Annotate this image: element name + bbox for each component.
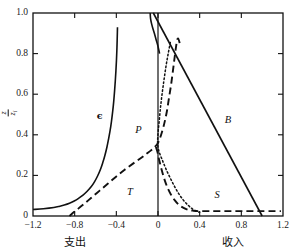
y-tick-label: 1.0 bbox=[2, 8, 28, 18]
series-T-transport bbox=[69, 38, 180, 216]
x-tick-label: 0.8 bbox=[224, 221, 258, 231]
x-tick-label: −1.2 bbox=[16, 221, 50, 231]
chart-figure: z zi 00.20.40.60.81.0−1.2−0.8−0.400.40.8… bbox=[0, 0, 296, 249]
x-tick-label: −0.8 bbox=[58, 221, 92, 231]
curve-label-P-profit: P bbox=[135, 125, 141, 136]
x-tick-label: −0.4 bbox=[99, 221, 133, 231]
x-tick-label: 0 bbox=[141, 221, 175, 231]
y-axis-label: z zi bbox=[1, 96, 17, 130]
x-tick-label: 0.4 bbox=[183, 221, 217, 231]
curve-label-T-transport: T bbox=[127, 187, 133, 198]
y-tick-label: 0.6 bbox=[2, 89, 28, 99]
x-axis-label-left: 支出 bbox=[45, 237, 105, 248]
y-tick-label: 0.8 bbox=[2, 49, 28, 59]
series-S-saving bbox=[156, 147, 281, 211]
x-tick-label: 1.2 bbox=[266, 221, 296, 231]
y-axis-label-denominator: z bbox=[8, 112, 17, 115]
y-axis-label-denominator-sub: i bbox=[12, 111, 18, 113]
chart-plot-area bbox=[0, 0, 296, 249]
series-P-profit bbox=[158, 42, 200, 212]
curve-label-S-saving: S bbox=[214, 190, 219, 201]
y-tick-label: 0.2 bbox=[2, 170, 28, 180]
curve-label-B-budget: B bbox=[225, 115, 231, 126]
x-axis-label-right: 收入 bbox=[203, 237, 263, 248]
curve-label-epsilon: ϵ bbox=[97, 111, 103, 121]
y-tick-label: 0.4 bbox=[2, 130, 28, 140]
data-series-group bbox=[33, 13, 281, 216]
series-epsilon bbox=[33, 27, 117, 209]
